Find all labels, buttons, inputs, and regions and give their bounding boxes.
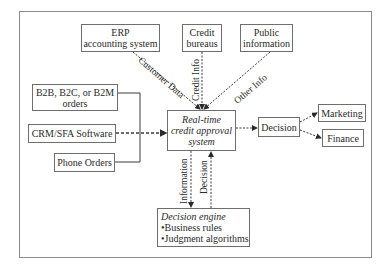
erp-line2: accounting system bbox=[83, 38, 157, 49]
decision-engine-box: Decision engine •Business rules •Judgmen… bbox=[157, 208, 250, 247]
finance-box: Finance bbox=[322, 129, 364, 147]
b2b-line1: B2B, B2C, or B2M bbox=[36, 87, 114, 98]
phone-orders-box: Phone Orders bbox=[54, 153, 115, 172]
crm-sfa-box: CRM/SFA Software bbox=[28, 124, 116, 143]
credit-bureaus-line1: Credit bbox=[190, 27, 215, 38]
credit-bureaus-box: Credit bureaus bbox=[182, 24, 222, 52]
public-info-line1: Public bbox=[254, 27, 280, 38]
finance-line1: Finance bbox=[327, 133, 359, 144]
phone-line1: Phone Orders bbox=[57, 157, 112, 168]
engine-line3: •Judgment algorithms bbox=[161, 233, 249, 244]
credit-info-label: Credit Info bbox=[191, 59, 201, 101]
b2b-orders-box: B2B, B2C, or B2M orders bbox=[32, 84, 118, 111]
decision-box: Decision bbox=[258, 117, 300, 137]
public-info-line2: information bbox=[243, 38, 290, 49]
credit-bureaus-line2: bureaus bbox=[186, 38, 217, 49]
engine-line2: •Business rules bbox=[161, 222, 222, 233]
decision-edge-label: Decision bbox=[199, 160, 209, 194]
marketing-box: Marketing bbox=[318, 104, 366, 122]
erp-accounting-box: ERP accounting system bbox=[81, 24, 160, 52]
b2b-line2: orders bbox=[63, 98, 88, 109]
engine-line1: Decision engine bbox=[161, 211, 226, 222]
marketing-line1: Marketing bbox=[321, 108, 363, 119]
credit-approval-system-box: Real-time credit approval system bbox=[167, 110, 236, 151]
core-line2: credit approval bbox=[171, 125, 232, 136]
information-label: Information bbox=[179, 159, 189, 204]
decision-line1: Decision bbox=[261, 122, 297, 133]
core-line1: Real-time bbox=[182, 114, 221, 125]
erp-line1: ERP bbox=[111, 27, 129, 38]
core-line3: system bbox=[188, 136, 215, 147]
crm-line1: CRM/SFA Software bbox=[32, 128, 113, 139]
public-information-box: Public information bbox=[240, 24, 293, 52]
